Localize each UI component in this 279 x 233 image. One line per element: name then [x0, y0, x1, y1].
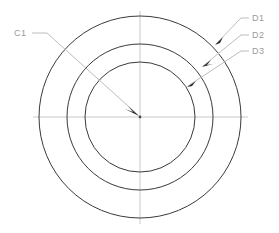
label-c1: C1 [14, 28, 26, 38]
leader-d3-group [187, 51, 249, 87]
technical-drawing-canvas: C1 D1 D2 D3 [0, 0, 279, 233]
label-d1: D1 [252, 13, 264, 23]
leader-d1-group [215, 18, 249, 45]
arrowhead-d1 [215, 37, 225, 45]
leader-line-d3 [188, 51, 249, 86]
arrowhead-d3 [187, 81, 198, 87]
leader-line-c1 [32, 33, 138, 115]
center-point-mark [139, 116, 142, 119]
arrowhead-c1 [125, 106, 139, 116]
arrowhead-d2 [202, 60, 213, 67]
label-d3: D3 [252, 46, 264, 56]
label-d2: D2 [252, 30, 264, 40]
